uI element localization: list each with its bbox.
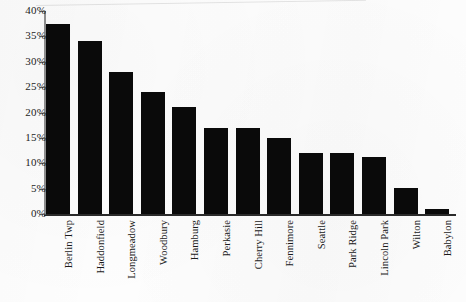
chart-page: 0%5%10%15%20%25%30%35%40% Berlin TwpHadd… [0,0,466,302]
x-axis-label: Longmeadow [126,220,138,279]
x-axis-label: Lincoln Park [379,220,391,276]
bar[interactable] [236,128,260,214]
x-axis-label: Woodbury [158,220,170,265]
bar[interactable] [141,92,165,214]
bar[interactable] [330,153,354,214]
x-axis-label: Haddonfield [95,220,107,274]
x-axis-baseline [44,214,456,216]
x-axis-label: Fennimore [284,220,296,266]
bar[interactable] [204,128,228,214]
bar[interactable] [109,72,133,214]
bar[interactable] [46,24,70,214]
x-axis-label: Babylon [442,220,454,256]
bar[interactable] [299,153,323,214]
bar[interactable] [78,41,102,214]
bar-chart: 0%5%10%15%20%25%30%35%40% Berlin TwpHadd… [0,0,466,302]
bars-layer [0,0,466,214]
x-axis-label: Berlin Twp [63,220,75,268]
x-axis-label: Park Ridge [347,220,359,268]
x-axis-label: Cherry Hill [253,220,265,269]
x-axis-label: Hamburg [189,220,201,260]
y-tick-0pct: 0% [0,214,46,215]
bar[interactable] [394,188,418,214]
bar[interactable] [425,209,449,214]
x-axis-label: Perkasie [221,220,233,256]
bar[interactable] [172,107,196,214]
bar[interactable] [267,138,291,214]
x-axis-label: Seattle [316,220,328,249]
bar[interactable] [362,157,386,214]
x-axis-label: Wilton [411,220,423,249]
